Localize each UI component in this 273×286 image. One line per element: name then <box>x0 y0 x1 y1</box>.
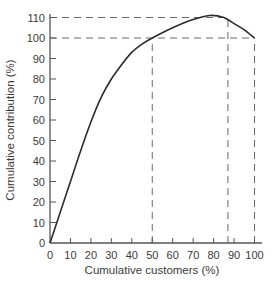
y-tick-label: 90 <box>33 53 45 65</box>
y-axis-label: Cumulative contribution (%) <box>4 59 16 200</box>
y-tick-label: 100 <box>27 32 45 44</box>
x-tick-label: 10 <box>64 249 76 261</box>
y-tick-label: 20 <box>33 196 45 208</box>
y-tick-label: 10 <box>33 217 45 229</box>
x-tick-label: 100 <box>245 249 263 261</box>
y-tick-label: 70 <box>33 94 45 106</box>
x-tick-label: 50 <box>146 249 158 261</box>
x-axis-label: Cumulative customers (%) <box>85 264 220 276</box>
x-tick-label: 90 <box>228 249 240 261</box>
y-tick-label: 50 <box>33 135 45 147</box>
x-tick-label: 80 <box>207 249 219 261</box>
x-tick-label: 20 <box>85 249 97 261</box>
x-tick-label: 70 <box>187 249 199 261</box>
x-tick-label: 40 <box>126 249 138 261</box>
y-tick-label: 0 <box>39 237 45 249</box>
y-tick-label: 60 <box>33 114 45 126</box>
chart: 0102030405060708090100 01020304050607080… <box>0 0 273 286</box>
axes <box>50 14 262 243</box>
x-tick-label: 0 <box>47 249 53 261</box>
y-ticks: 0102030405060708090100110 <box>27 12 56 250</box>
x-ticks: 0102030405060708090100 <box>47 238 264 261</box>
reference-lines <box>50 18 255 244</box>
y-tick-label: 30 <box>33 176 45 188</box>
y-tick-label: 40 <box>33 155 45 167</box>
y-tick-label: 110 <box>27 12 45 24</box>
y-tick-label: 80 <box>33 73 45 85</box>
x-tick-label: 60 <box>167 249 179 261</box>
x-tick-label: 30 <box>105 249 117 261</box>
